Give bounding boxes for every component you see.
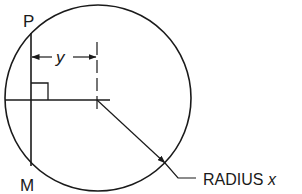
distance-label-y: y (55, 48, 66, 67)
radius-label: RADIUS x (203, 171, 277, 188)
radius-line (97, 100, 165, 163)
radius-label-prefix: RADIUS (203, 171, 268, 188)
circle (5, 5, 191, 191)
point-label-p: P (23, 12, 34, 31)
circle-chord-diagram: y RADIUS x P M (0, 0, 302, 194)
radius-variable: x (267, 171, 277, 188)
right-angle-marker (31, 83, 48, 100)
point-label-m: M (20, 176, 34, 194)
radius-leader-line (165, 163, 196, 178)
